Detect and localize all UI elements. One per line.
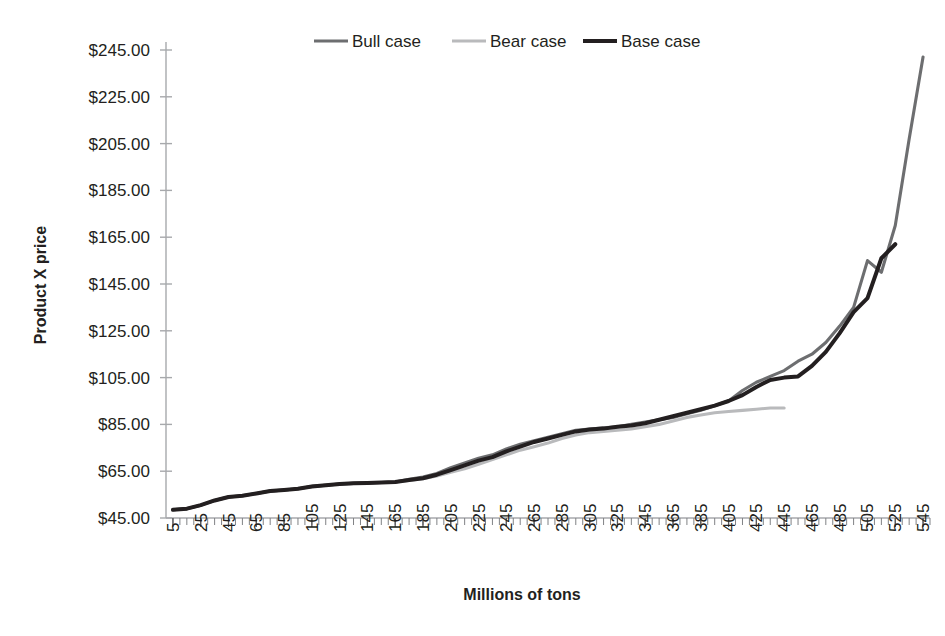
y-tick-label: $125.00 [89,322,150,341]
x-tick-label: 545 [914,504,933,532]
x-tick-label: 445 [775,504,794,532]
y-tick-label: $65.00 [98,462,150,481]
x-tick-label: 165 [386,504,405,532]
x-axis-title: Millions of tons [463,586,580,603]
y-tick-label: $105.00 [89,369,150,388]
x-tick-label: 105 [303,504,322,532]
y-tick-label: $245.00 [89,41,150,60]
legend-label-bull-case[interactable]: Bull case [352,32,421,51]
y-tick-label: $225.00 [89,88,150,107]
x-tick-label: 45 [220,513,239,532]
x-tick-label: 405 [720,504,739,532]
x-tick-label: 425 [747,504,766,532]
x-tick-label: 145 [358,504,377,532]
x-tick-label: 125 [331,504,350,532]
y-axis-title: Product X price [32,226,49,344]
x-tick-label: 265 [525,504,544,532]
x-tick-label: 245 [497,504,516,532]
y-tick-label: $85.00 [98,415,150,434]
x-tick-label: 485 [831,504,850,532]
y-tick-label: $45.00 [98,509,150,528]
x-tick-label: 305 [581,504,600,532]
x-tick-label: 5 [164,523,183,532]
x-tick-label: 465 [803,504,822,532]
y-tick-label: $185.00 [89,181,150,200]
chart-legend: Bull caseBear caseBase case [314,32,700,51]
legend-label-bear-case[interactable]: Bear case [490,32,567,51]
x-tick-label: 185 [414,504,433,532]
x-tick-label: 365 [664,504,683,532]
legend-label-base-case[interactable]: Base case [621,32,700,51]
x-tick-label: 65 [247,513,266,532]
chart-canvas: Bull caseBear caseBase case $245.00$225.… [0,0,945,636]
x-tick-label: 385 [692,504,711,532]
y-tick-label: $145.00 [89,275,150,294]
x-tick-label: 325 [608,504,627,532]
x-tick-label: 345 [636,504,655,532]
x-tick-label: 285 [553,504,572,532]
x-tick-label: 505 [858,504,877,532]
x-tick-label: 525 [886,504,905,532]
cost-curve-chart: Bull caseBear caseBase case $245.00$225.… [0,0,945,636]
x-tick-label: 85 [275,513,294,532]
x-tick-label: 225 [470,504,489,532]
x-tick-label: 205 [442,504,461,532]
x-tick-label: 25 [192,513,211,532]
y-tick-label: $205.00 [89,135,150,154]
y-tick-label: $165.00 [89,228,150,247]
